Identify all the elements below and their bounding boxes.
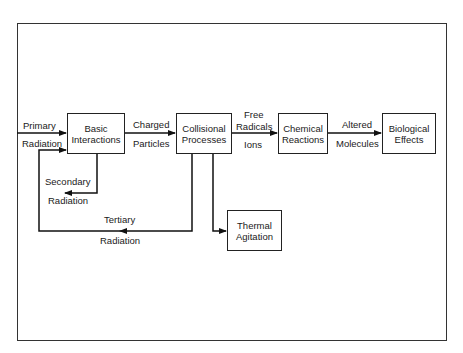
box-text: Basic (71, 123, 120, 134)
basic-interactions-box: BasicInteractions (67, 113, 125, 154)
box-text: Reactions (282, 134, 324, 145)
box-text: Agitation (236, 231, 273, 242)
tertiary-radiation-label: Radiation (100, 235, 140, 246)
tertiary-label: Tertiary (104, 214, 135, 225)
radicals-label: Radicals (236, 121, 272, 132)
primary-radiation-label: Radiation (22, 138, 62, 149)
ions-label: Ions (244, 139, 262, 150)
chemical-reactions-box: ChemicalReactions (278, 113, 328, 154)
secondary-label: Secondary (45, 176, 90, 187)
particles-label: Particles (133, 138, 169, 149)
box-text: Chemical (282, 123, 324, 134)
box-text: Collisional (182, 123, 226, 134)
secondary-arrow (65, 153, 97, 193)
box-text: Interactions (71, 134, 120, 145)
primary-label: Primary (23, 120, 56, 131)
biological-effects-box: BiologicalEffects (382, 113, 436, 154)
collisional-processes-box: CollisionalProcesses (176, 113, 232, 154)
molecules-label: Molecules (336, 138, 379, 149)
box-text: Biological (389, 123, 430, 134)
box-text: Effects (389, 134, 430, 145)
box-text: Processes (182, 134, 226, 145)
charged-label: Charged (133, 119, 169, 130)
altered-label: Altered (342, 119, 372, 130)
secondary-radiation-label: Radiation (48, 195, 88, 206)
thermal-arrow (213, 153, 226, 231)
box-text: Thermal (236, 220, 273, 231)
thermal-agitation-box: ThermalAgitation (227, 210, 282, 251)
free-label: Free (244, 109, 264, 120)
